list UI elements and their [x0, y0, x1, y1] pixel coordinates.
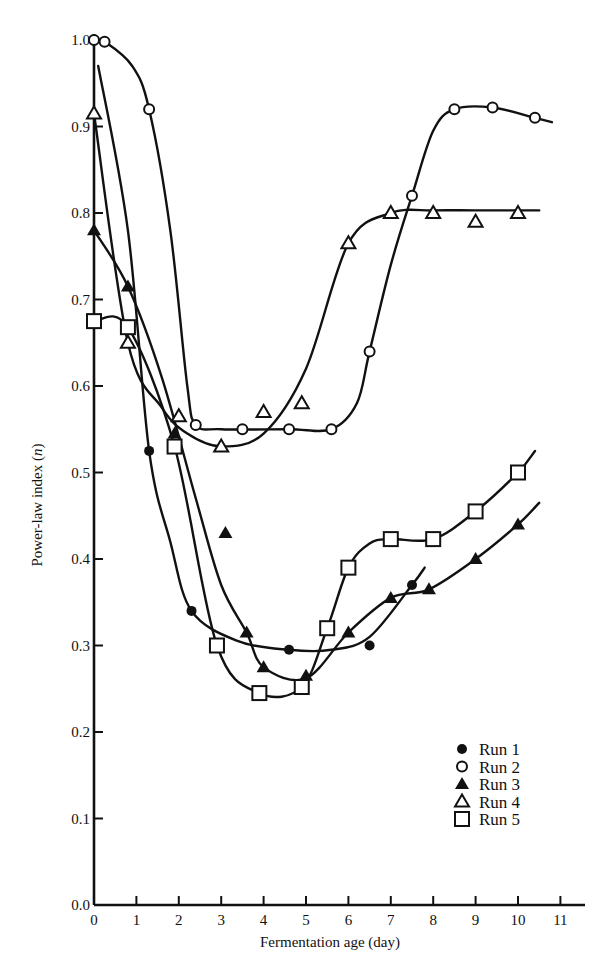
- legend-label: Run 5: [479, 810, 520, 829]
- open-circle-marker-icon: [365, 346, 375, 356]
- open-circle-marker-icon: [191, 420, 201, 430]
- y-tick-label: 0.1: [71, 811, 90, 827]
- filled-circle-marker-icon: [144, 446, 154, 456]
- x-axis-title: Fermentation age (day): [260, 934, 400, 951]
- x-tick-label: 10: [511, 912, 526, 928]
- filled-circle-marker-icon: [284, 645, 294, 655]
- open-circle-marker-icon: [144, 104, 154, 114]
- x-tick-label: 5: [302, 912, 310, 928]
- open-triangle-marker-icon: [511, 206, 525, 218]
- y-tick-label: 1.0: [71, 32, 90, 48]
- open-circle-marker-icon: [100, 37, 110, 47]
- curve-run-3: [94, 230, 539, 680]
- legend: Run 1Run 2Run 3Run 4Run 5: [455, 740, 521, 829]
- open-square-marker-icon: [384, 532, 398, 546]
- open-triangle-marker-icon: [341, 236, 355, 248]
- curve-run-2: [94, 39, 552, 431]
- x-tick-label: 1: [133, 912, 141, 928]
- filled-circle-marker-icon: [187, 606, 197, 616]
- y-tick-label: 0.2: [71, 724, 90, 740]
- open-square-marker-icon: [168, 440, 182, 454]
- y-axis-title: Power-law index (n): [29, 443, 46, 566]
- open-square-marker-icon: [252, 686, 266, 700]
- power-law-index-chart: 0.00.10.20.30.40.50.60.70.80.91.00123456…: [0, 0, 612, 973]
- open-circle-marker-icon: [488, 102, 498, 112]
- y-tick-label: 0.0: [71, 897, 90, 913]
- legend-label: Run 3: [479, 775, 520, 794]
- legend-item: Run 3: [455, 775, 520, 794]
- open-circle-marker-icon: [407, 191, 417, 201]
- y-tick-label: 0.7: [71, 292, 90, 308]
- y-tick-label: 0.3: [71, 638, 90, 654]
- legend-label: Run 2: [479, 758, 520, 777]
- y-tick-label: 0.6: [71, 378, 90, 394]
- open-triangle-marker-icon: [469, 215, 483, 227]
- filled-triangle-marker-icon: [469, 552, 483, 564]
- open-square-marker-icon: [511, 466, 525, 480]
- legend-item: Run 2: [457, 758, 520, 777]
- open-circle-marker-icon: [89, 35, 99, 45]
- x-tick-label: 2: [175, 912, 183, 928]
- filled-triangle-marker-icon: [422, 582, 436, 594]
- open-circle-marker-icon: [530, 113, 540, 123]
- open-square-marker-icon: [210, 639, 224, 653]
- open-triangle-marker-icon: [295, 396, 309, 408]
- open-square-marker-icon: [87, 314, 101, 328]
- filled-triangle-marker-icon: [455, 777, 469, 789]
- open-square-marker-icon: [469, 504, 483, 518]
- y-tick-label: 0.4: [71, 551, 90, 567]
- x-tick-label: 6: [345, 912, 353, 928]
- filled-circle-marker-icon: [457, 744, 467, 754]
- open-circle-marker-icon: [457, 762, 467, 772]
- legend-label: Run 1: [479, 740, 520, 759]
- open-square-marker-icon: [320, 621, 334, 635]
- open-square-marker-icon: [455, 812, 469, 826]
- y-tick-label: 0.5: [71, 465, 90, 481]
- x-tick-label: 7: [387, 912, 395, 928]
- open-circle-marker-icon: [326, 424, 336, 434]
- y-tick-label: 0.9: [71, 119, 90, 135]
- open-square-marker-icon: [426, 532, 440, 546]
- x-tick-label: 11: [553, 912, 567, 928]
- filled-circle-marker-icon: [365, 641, 375, 651]
- x-tick-label: 4: [260, 912, 268, 928]
- open-square-marker-icon: [295, 680, 309, 694]
- open-square-marker-icon: [121, 320, 135, 334]
- curve-run-1: [98, 66, 425, 651]
- legend-item: Run 1: [457, 740, 520, 759]
- open-triangle-marker-icon: [455, 795, 469, 807]
- filled-triangle-marker-icon: [87, 223, 101, 235]
- open-circle-marker-icon: [237, 424, 247, 434]
- open-square-marker-icon: [341, 561, 355, 575]
- open-triangle-marker-icon: [257, 405, 271, 417]
- y-tick-label: 0.8: [71, 205, 90, 221]
- legend-item: Run 5: [455, 810, 520, 829]
- open-circle-marker-icon: [284, 424, 294, 434]
- legend-label: Run 4: [479, 793, 521, 812]
- open-triangle-marker-icon: [87, 107, 101, 119]
- legend-item: Run 4: [455, 793, 521, 812]
- curves: [94, 39, 552, 697]
- filled-triangle-marker-icon: [218, 526, 232, 538]
- x-tick-label: 8: [429, 912, 437, 928]
- x-tick-label: 9: [472, 912, 480, 928]
- filled-triangle-marker-icon: [240, 626, 254, 638]
- open-circle-marker-icon: [449, 104, 459, 114]
- open-triangle-marker-icon: [426, 206, 440, 218]
- x-tick-label: 3: [217, 912, 225, 928]
- filled-circle-marker-icon: [407, 580, 417, 590]
- x-tick-label: 0: [90, 912, 98, 928]
